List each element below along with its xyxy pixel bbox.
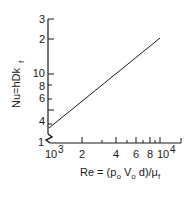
- svg-text:8: 8: [39, 80, 45, 92]
- svg-text:Nu=hDk: Nu=hDk: [10, 67, 22, 108]
- svg-text:10: 10: [157, 148, 169, 160]
- svg-text:1: 1: [38, 136, 44, 148]
- data-line: [49, 38, 160, 128]
- y-ticks: [48, 19, 54, 124]
- x-ticks: [82, 137, 160, 143]
- svg-text:4: 4: [113, 148, 119, 160]
- svg-text:4: 4: [39, 115, 45, 127]
- svg-text:10: 10: [33, 67, 45, 79]
- svg-text:2: 2: [79, 148, 85, 160]
- svg-text:f: f: [17, 60, 26, 63]
- y-tick-labels: 3 2 10 8 6 4 1: [33, 13, 45, 148]
- y-axis-label: Nu=hDk f: [10, 60, 26, 108]
- svg-text:6: 6: [133, 148, 139, 160]
- svg-text:6: 6: [39, 92, 45, 104]
- axis-break-icon: [46, 134, 52, 143]
- chart-canvas: 3 2 10 8 6 4 1 10 3 2 4 6 8 10 4 Nu=hDk …: [0, 0, 191, 199]
- svg-text:4: 4: [170, 144, 176, 155]
- svg-text:2: 2: [39, 33, 45, 45]
- svg-text:Re = (po Vo d)/μf: Re = (po Vo d)/μf: [80, 166, 161, 181]
- x-axis-label: Re = (po Vo d)/μf: [80, 166, 161, 181]
- svg-text:3: 3: [58, 144, 64, 155]
- svg-text:3: 3: [39, 13, 45, 25]
- svg-text:10: 10: [45, 148, 57, 160]
- svg-text:8: 8: [147, 148, 153, 160]
- x-tick-labels: 10 3 2 4 6 8 10 4: [45, 144, 176, 160]
